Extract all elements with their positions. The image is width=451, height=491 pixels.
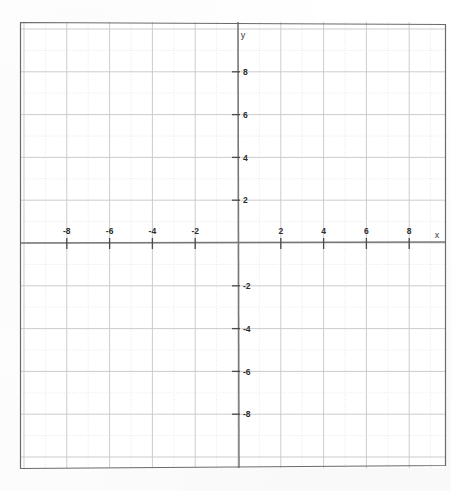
y-tick-label: -6	[243, 367, 251, 377]
y-tick-label: 4	[243, 153, 248, 163]
x-tick-label: 2	[278, 226, 283, 236]
plot-background	[20, 22, 446, 468]
y-tick-label: -4	[243, 324, 251, 334]
y-tick-label: 6	[243, 110, 248, 120]
y-tick-label: 8	[243, 67, 248, 77]
coordinate-plane[interactable]: -8-6-4-224688642-2-4-6-8 x y	[0, 0, 451, 491]
x-tick-label: -6	[106, 226, 114, 236]
x-tick-label: -8	[63, 226, 71, 236]
y-tick-label: -8	[243, 409, 251, 419]
y-axis-label: y	[241, 30, 246, 40]
x-axis-label: x	[435, 230, 440, 240]
y-tick-label: -2	[243, 281, 251, 291]
x-tick-label: 6	[364, 226, 369, 236]
y-tick-label: 2	[243, 195, 248, 205]
x-axis-line	[20, 242, 446, 243]
y-axis-line	[238, 22, 239, 468]
x-tick-label: 8	[407, 226, 412, 236]
x-tick-label: -2	[191, 226, 199, 236]
x-tick-label: 4	[321, 226, 326, 236]
coordinate-graph: -8-6-4-224688642-2-4-6-8 x y	[0, 0, 451, 491]
x-tick-label: -4	[149, 226, 157, 236]
